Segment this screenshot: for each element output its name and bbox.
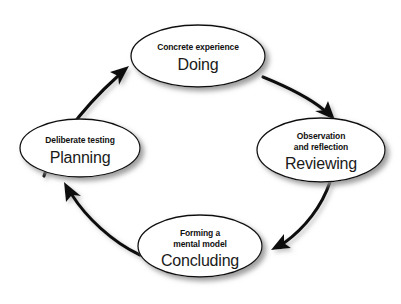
node-doing-label: Doing [178,56,219,73]
arrow-doing-to-reviewing [263,77,335,120]
node-planning-caption: Deliberate testing [45,135,115,145]
diagram-canvas: Concrete experience Doing Observation an… [0,0,401,304]
node-reviewing-label: Reviewing [285,155,357,172]
node-concluding-label: Concluding [161,252,239,269]
arrow-concluding-to-planning [64,182,140,255]
node-reviewing-caption-line1: Observation [297,131,346,141]
arrow-reviewing-to-concluding [271,182,330,250]
node-reviewing-caption-line2: and reflection [294,142,348,152]
node-planning-ellipse [20,119,140,177]
node-concluding[interactable]: Forming a mental model Concluding [138,215,262,277]
cycle-diagram: Concrete experience Doing Observation an… [0,0,401,304]
node-planning[interactable]: Deliberate testing Planning [20,119,140,177]
node-doing-caption: Concrete experience [157,42,239,52]
node-concluding-caption-line2: mental model [173,239,227,249]
node-concluding-caption-line1: Forming a [180,228,221,238]
node-reviewing[interactable]: Observation and reflection Reviewing [257,118,385,182]
node-planning-label: Planning [50,149,111,166]
node-doing[interactable]: Concrete experience Doing [131,25,265,87]
